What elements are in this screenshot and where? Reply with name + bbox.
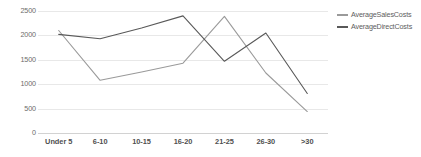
- x-axis-tick-label: 21-25: [215, 137, 234, 146]
- y-axis-tick-label: 2000: [2, 31, 36, 38]
- line-chart: 05001000150020002500 Under 56-1010-1516-…: [0, 0, 421, 157]
- y-axis-tick-label: 500: [2, 105, 36, 112]
- x-axis-tick-label: 16-20: [174, 137, 193, 146]
- y-axis: 05001000150020002500: [0, 11, 36, 133]
- legend-item[interactable]: AverageSalesCosts: [337, 9, 421, 20]
- x-axis-tick-label: 26-30: [257, 137, 276, 146]
- y-axis-tick-label: 1500: [2, 56, 36, 63]
- x-axis-tick-label: >30: [301, 137, 313, 146]
- x-axis-line: [38, 133, 328, 134]
- y-axis-tick-label: 2500: [2, 7, 36, 14]
- legend-line-icon: [337, 26, 348, 28]
- plot-area: [38, 11, 328, 133]
- x-axis-tick-label: 10-15: [132, 137, 151, 146]
- legend-item[interactable]: AverageDirectCosts: [337, 21, 421, 32]
- x-axis-tick-label: 6-10: [93, 137, 108, 146]
- y-axis-tick-label: 0: [2, 129, 36, 136]
- series-lines: [38, 11, 328, 133]
- chart-legend: AverageSalesCostsAverageDirectCosts: [337, 9, 421, 33]
- x-axis: Under 56-1010-1516-2021-2526-30>30: [38, 137, 328, 151]
- legend-line-icon: [337, 14, 348, 16]
- legend-item-label: AverageDirectCosts: [351, 23, 412, 31]
- series-line: [59, 16, 308, 111]
- x-axis-tick-label: Under 5: [45, 137, 72, 146]
- series-line: [59, 16, 308, 94]
- legend-item-label: AverageSalesCosts: [351, 11, 411, 19]
- y-axis-tick-label: 1000: [2, 80, 36, 87]
